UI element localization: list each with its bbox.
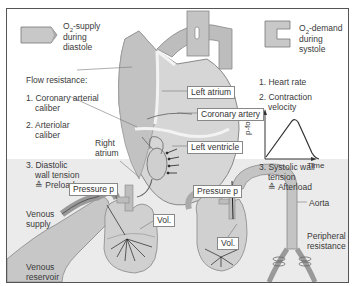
peripheral-resistance-label: Peripheral [307,231,346,241]
diastolic-tension-item-line2: wall tension [35,170,79,180]
venous-reservoir-label: Venous [26,262,54,272]
arteriolar-caliber-item-line2: caliber [35,130,60,140]
o2-supply-label-line3: diastole [63,42,92,52]
heart-rate-item: 1. Heart rate [259,77,306,87]
diagram-frame: O2-supply during diastole O2-demand duri… [6,8,349,283]
o2-demand-bracket-icon [265,21,290,47]
o2-supply-arrow-icon [21,27,57,43]
chart-xlabel: Time [307,161,324,171]
contraction-velocity-item-line2: velocity [268,102,296,112]
contraction-velocity-item: 2. Contraction [259,92,312,102]
coronary-artery-label: Coronary artery [197,108,264,121]
pressure-label-afterload: Pressure p [193,185,242,198]
coronary-caliber-item: 1. Coronary arterial [26,93,99,103]
volume-label-preload: Vol. [153,214,175,227]
right-atrium-label: Right [95,138,115,148]
volume-label-afterload: Vol. [217,237,239,250]
o2-supply-label-line2: during [63,32,87,42]
venous-supply-label: Venous [26,209,54,219]
left-ventricle-label: Left ventricle [187,141,243,154]
o2-demand-label-line3: systole [299,44,325,54]
flow-resistance-heading: Flow resistance: [26,75,87,85]
venous-reservoir-label-line2: reservoir [26,272,59,282]
diastolic-tension-item: 3. Diastolic [26,160,68,170]
peripheral-resistance-label-line2: resistance [307,241,346,251]
pressure-label-preload: Pressure p [69,183,118,196]
p-force-time-chart [263,109,319,161]
right-atrium-label-line2: atrium [95,148,119,158]
diagram-artwork [7,9,348,282]
arteriolar-caliber-item: 2. Arteriolar [26,120,69,130]
venous-supply-label-line2: supply [26,219,51,229]
o2-demand-label-line2: during [299,34,323,44]
systolic-tension-item-line2: tension [268,172,295,182]
afterload-label: ≙ Afterload [268,182,312,192]
left-atrium-label: Left atrium [187,86,235,99]
coronary-caliber-item-line2: caliber [35,103,60,113]
aorta-label: Aorta [309,198,329,208]
